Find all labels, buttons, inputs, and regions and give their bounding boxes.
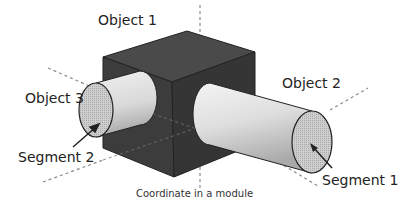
label-object-1: Object 1 xyxy=(98,12,157,28)
diagram-canvas: Object 1 Object 2 Object 3 Segment 1 Seg… xyxy=(0,0,407,208)
label-object-3: Object 3 xyxy=(25,90,84,106)
label-segment-2: Segment 2 xyxy=(18,149,94,165)
label-segment-1: Segment 1 xyxy=(322,172,398,188)
caption: Coordinate in a module xyxy=(136,188,253,199)
label-object-2: Object 2 xyxy=(282,75,341,91)
